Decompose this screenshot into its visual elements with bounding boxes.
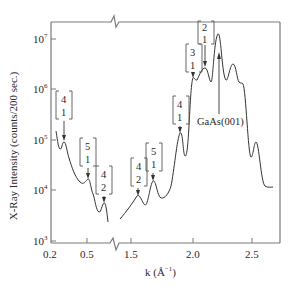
svg-text:4: 4: [61, 94, 67, 105]
svg-text:5: 5: [151, 146, 156, 157]
svg-text:1: 1: [202, 34, 207, 45]
annotation-low-k-4-1: 4 1: [56, 91, 72, 141]
x-axis-title: k (Å−1): [145, 265, 176, 279]
annotation-high-k-3-1: 3 1: [186, 44, 202, 78]
svg-text:4: 4: [136, 161, 142, 172]
svg-text:2.0: 2.0: [186, 248, 200, 260]
xray-intensity-chart: 107 106 105 104 103 0.2 0.5 1.5 2.0 2.5 …: [0, 0, 291, 286]
svg-text:2: 2: [101, 182, 106, 193]
svg-text:103: 103: [33, 234, 48, 247]
y-ticks: [51, 39, 56, 241]
svg-text:4: 4: [101, 169, 107, 180]
svg-text:1: 1: [61, 107, 66, 118]
annotation-high-k-5-1: 5 1: [146, 143, 162, 181]
svg-text:107: 107: [33, 32, 48, 45]
annotation-high-k-4-2: 4 2: [131, 158, 147, 196]
svg-text:104: 104: [33, 183, 48, 196]
svg-text:0.5: 0.5: [80, 248, 94, 260]
svg-text:2.5: 2.5: [245, 248, 259, 260]
x-tick-labels: 0.2 0.5 1.5 2.0 2.5: [43, 248, 259, 260]
annotation-low-k-5-1: 5 1: [80, 138, 96, 179]
svg-text:1.5: 1.5: [124, 248, 138, 260]
svg-text:1: 1: [177, 112, 182, 123]
y-axis-title: X-Ray Intensity (counts/200 sec.): [7, 71, 20, 220]
svg-text:1: 1: [85, 154, 90, 165]
y-tick-labels: 107 106 105 104 103: [33, 32, 48, 247]
top-frame-line: [51, 16, 280, 27]
svg-text:2: 2: [136, 174, 141, 185]
annotation-low-k-4-2: 4 2: [96, 166, 112, 203]
svg-text:0.2: 0.2: [43, 248, 57, 260]
svg-text:GaAs(001): GaAs(001): [197, 116, 244, 128]
svg-text:5: 5: [85, 141, 90, 152]
svg-text:3: 3: [190, 47, 195, 58]
annotation-high-k-4-1: 4 1: [173, 96, 189, 133]
annotation-high-k-2-1: 2 1: [198, 21, 214, 67]
svg-text:2: 2: [202, 22, 207, 33]
svg-text:4: 4: [177, 99, 183, 110]
svg-text:105: 105: [33, 133, 48, 146]
svg-text:106: 106: [33, 82, 48, 95]
svg-text:1: 1: [151, 159, 156, 170]
svg-text:1: 1: [190, 60, 195, 71]
